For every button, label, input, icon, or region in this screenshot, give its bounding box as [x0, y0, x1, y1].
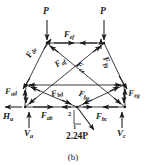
- truss-free-body-figure: P P Fef Fde Ffg Faf Fce Fad Fbd Fbg Feg …: [0, 0, 146, 165]
- label-Vc: Vc: [117, 129, 126, 138]
- arrow-Faf-low: [29, 98, 36, 104]
- label-Fbg: Fbg: [78, 89, 91, 100]
- label-Fad-sub: ad: [11, 90, 17, 96]
- member-af: [25, 43, 104, 107]
- label-load-P-left: P: [43, 7, 49, 17]
- label-Fad: Fad: [5, 86, 17, 95]
- label-slope-run: 1: [73, 124, 76, 131]
- label-Fad-base: F: [5, 86, 11, 96]
- arrow-Fce-low: [114, 98, 121, 104]
- joint-a: [24, 106, 26, 108]
- joint-g: [123, 84, 125, 86]
- label-Fef: Fef: [64, 30, 74, 39]
- arrow-Fce-high: [50, 46, 58, 52]
- label-Ha-base: H: [3, 111, 10, 121]
- label-Va: Va: [24, 129, 33, 138]
- label-Fbc-sub: bc: [102, 116, 107, 122]
- arrow-Faf-high: [93, 46, 101, 52]
- label-Ha-sub: a: [10, 115, 13, 122]
- truss-joints: [24, 42, 126, 108]
- joint-e: [46, 42, 48, 44]
- label-Fbc: Fbc: [96, 112, 107, 121]
- label-Fab-base: F: [41, 110, 47, 120]
- label-Fab-sub: ab: [47, 115, 53, 121]
- label-Ha: Ha: [3, 112, 13, 121]
- arrow-Fde-down: [23, 78, 30, 89]
- arrow-applied-force: [77, 107, 94, 130]
- label-Fef-sub: ef: [70, 34, 74, 40]
- label-Fbd: Fbd: [50, 87, 63, 98]
- joint-f: [103, 42, 105, 44]
- joint-c: [124, 106, 126, 108]
- label-applied-force: 2.24P: [66, 132, 88, 142]
- joint-b: [76, 106, 78, 108]
- label-slope-rise: 2: [68, 111, 71, 118]
- figure-caption: (b): [0, 152, 146, 162]
- label-Fab: Fab: [41, 111, 52, 120]
- arrow-Fbg-right: [110, 87, 119, 91]
- label-Feg: Feg: [128, 88, 140, 97]
- arrow-Fbd-left: [31, 87, 40, 91]
- arrow-Fbd-right: [62, 100, 71, 104]
- slope-triangle: [74, 110, 81, 124]
- label-Feg-sub: eg: [134, 92, 140, 98]
- label-Vc-sub: c: [123, 132, 126, 139]
- label-Fbd-sub: bd: [56, 91, 63, 98]
- label-Va-sub: a: [30, 132, 33, 139]
- label-Fbc-base: F: [96, 111, 102, 121]
- joint-d: [25, 84, 27, 86]
- truss-members: [25, 43, 125, 107]
- label-load-P-right: P: [100, 7, 106, 17]
- label-Fef-base: F: [64, 29, 70, 39]
